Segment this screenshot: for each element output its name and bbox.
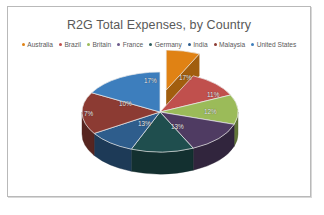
chart-frame: R2G Total Expenses, by Country Australia… xyxy=(7,6,311,197)
legend-label: Australia xyxy=(27,41,53,48)
legend-label: Germany xyxy=(155,41,182,48)
legend-swatch-icon xyxy=(188,43,191,46)
legend-label: United States xyxy=(257,41,297,48)
legend-label: France xyxy=(123,41,144,48)
legend-label: India xyxy=(193,41,207,48)
legend-swatch-icon xyxy=(251,43,254,46)
pie-chart-area: 17%11%12%13%13%7%10%17% xyxy=(8,50,311,180)
chart-legend: AustraliaBrazilBritainFranceGermanyIndia… xyxy=(8,41,310,48)
legend-label: Malaysia xyxy=(219,41,245,48)
legend-swatch-icon xyxy=(59,43,62,46)
chart-title: R2G Total Expenses, by Country xyxy=(8,18,310,32)
legend-label: Britain xyxy=(92,41,111,48)
pie-slice-tops xyxy=(82,50,238,152)
legend-swatch-icon xyxy=(214,43,217,46)
pie-chart-svg xyxy=(8,50,311,180)
legend-item[interactable]: France xyxy=(117,41,143,48)
legend-item[interactable]: India xyxy=(188,41,208,48)
legend-item[interactable]: Australia xyxy=(22,41,53,48)
legend-swatch-icon xyxy=(22,43,25,46)
legend-item[interactable]: Britain xyxy=(87,41,111,48)
legend-label: Brazil xyxy=(64,41,81,48)
legend-item[interactable]: Brazil xyxy=(59,41,81,48)
legend-item[interactable]: Malaysia xyxy=(214,41,246,48)
legend-swatch-icon xyxy=(149,43,152,46)
legend-swatch-icon xyxy=(87,43,90,46)
legend-item[interactable]: United States xyxy=(251,41,296,48)
legend-swatch-icon xyxy=(117,43,120,46)
legend-item[interactable]: Germany xyxy=(149,41,182,48)
